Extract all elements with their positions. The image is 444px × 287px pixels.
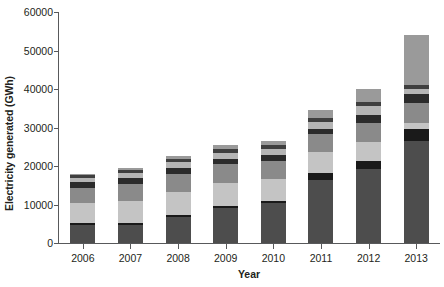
x-tick-mark bbox=[273, 244, 274, 249]
bar-segment[interactable] bbox=[404, 94, 429, 103]
bar-group[interactable] bbox=[70, 12, 95, 243]
y-tick-label: 30000 bbox=[9, 123, 53, 133]
bar-group[interactable] bbox=[261, 12, 286, 243]
bar-segment[interactable] bbox=[308, 173, 333, 181]
x-tick-label: 2013 bbox=[386, 252, 444, 264]
bar-segment[interactable] bbox=[356, 123, 381, 142]
bar-segment[interactable] bbox=[261, 161, 286, 179]
bar-segment[interactable] bbox=[308, 110, 333, 118]
bar-segment[interactable] bbox=[356, 89, 381, 102]
x-tick-mark bbox=[416, 244, 417, 249]
bar-stack bbox=[118, 168, 143, 243]
y-tick-mark bbox=[54, 243, 59, 244]
bar-segment[interactable] bbox=[213, 183, 238, 206]
bar-stack bbox=[356, 89, 381, 243]
bar-segment[interactable] bbox=[261, 203, 286, 243]
x-tick-mark bbox=[130, 244, 131, 249]
bar-segment[interactable] bbox=[308, 180, 333, 243]
bar-stack bbox=[261, 141, 286, 243]
bar-stack bbox=[213, 145, 238, 243]
bar-group[interactable] bbox=[118, 12, 143, 243]
y-tick-mark bbox=[54, 89, 59, 90]
y-tick-mark bbox=[54, 12, 59, 13]
bar-segment[interactable] bbox=[213, 208, 238, 243]
bar-segment[interactable] bbox=[166, 174, 191, 192]
bar-segment[interactable] bbox=[261, 179, 286, 200]
bar-segment[interactable] bbox=[166, 217, 191, 243]
y-tick-mark bbox=[54, 166, 59, 167]
bar-segment[interactable] bbox=[404, 129, 429, 141]
x-tick-mark bbox=[369, 244, 370, 249]
y-tick-mark bbox=[54, 205, 59, 206]
bar-segment[interactable] bbox=[70, 203, 95, 223]
bar-segment[interactable] bbox=[404, 141, 429, 243]
bar-segment[interactable] bbox=[70, 225, 95, 243]
y-tick-mark bbox=[54, 51, 59, 52]
bar-segment[interactable] bbox=[356, 142, 381, 161]
bar-segment[interactable] bbox=[118, 184, 143, 202]
bar-segment[interactable] bbox=[404, 35, 429, 85]
bar-segment[interactable] bbox=[118, 225, 143, 243]
plot-area bbox=[59, 12, 440, 243]
bar-segment[interactable] bbox=[356, 106, 381, 115]
bar-group[interactable] bbox=[356, 12, 381, 243]
x-axis-line bbox=[58, 243, 440, 244]
bar-segment[interactable] bbox=[166, 192, 191, 215]
bar-segment[interactable] bbox=[356, 169, 381, 243]
bar-stack bbox=[166, 156, 191, 243]
x-tick-mark bbox=[321, 244, 322, 249]
y-axis-tick-labels: 0100002000030000400005000060000 bbox=[0, 0, 53, 287]
bar-segment[interactable] bbox=[118, 201, 143, 223]
bar-group[interactable] bbox=[404, 12, 429, 243]
bar-stack bbox=[308, 110, 333, 243]
y-tick-mark bbox=[54, 128, 59, 129]
y-tick-label: 40000 bbox=[9, 84, 53, 94]
bar-segment[interactable] bbox=[404, 103, 429, 123]
x-tick-mark bbox=[178, 244, 179, 249]
x-axis-title: Year bbox=[58, 268, 440, 280]
bar-segment[interactable] bbox=[70, 188, 95, 203]
bar-segment[interactable] bbox=[308, 122, 333, 129]
y-tick-label: 50000 bbox=[9, 46, 53, 56]
bar-group[interactable] bbox=[213, 12, 238, 243]
stacked-bar-chart: Electricity generated (GWh) 010000200003… bbox=[0, 0, 444, 287]
bar-stack bbox=[70, 174, 95, 243]
bar-segment[interactable] bbox=[308, 152, 333, 172]
y-tick-label: 0 bbox=[9, 238, 53, 248]
y-tick-label: 10000 bbox=[9, 200, 53, 210]
x-tick-mark bbox=[226, 244, 227, 249]
y-tick-label: 20000 bbox=[9, 161, 53, 171]
bar-group[interactable] bbox=[166, 12, 191, 243]
x-tick-mark bbox=[83, 244, 84, 249]
y-tick-label: 60000 bbox=[9, 7, 53, 17]
bar-segment[interactable] bbox=[213, 164, 238, 183]
bar-segment[interactable] bbox=[356, 161, 381, 169]
bar-segment[interactable] bbox=[308, 134, 333, 152]
bar-segment[interactable] bbox=[356, 115, 381, 123]
bar-stack bbox=[404, 35, 429, 243]
bar-group[interactable] bbox=[308, 12, 333, 243]
